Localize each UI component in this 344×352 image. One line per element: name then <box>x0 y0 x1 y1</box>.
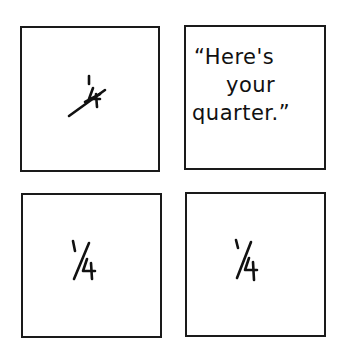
panel-4: 1/4 <box>185 192 326 337</box>
speech-line-3: quarter.” <box>192 103 290 124</box>
speech-text: “Here's your quarter.” <box>186 27 324 168</box>
panel-2: “Here's your quarter.” <box>184 25 326 170</box>
numerator-1 <box>73 241 75 251</box>
denominator-4 <box>245 258 257 280</box>
fraction-one-quarter: 1/4 <box>67 237 117 287</box>
speech-line-2: your <box>226 75 275 96</box>
speech-line-1: “Here's <box>194 47 274 68</box>
panel-1: 1/4 <box>20 26 160 172</box>
denominator-4 <box>83 259 95 279</box>
fraction-one-quarter: 1/4 <box>230 236 280 286</box>
slash <box>69 90 105 116</box>
numerator-1 <box>236 240 238 248</box>
fraction-one-quarter: 1/4 <box>67 74 117 124</box>
panel-3: 1/4 <box>21 193 162 338</box>
